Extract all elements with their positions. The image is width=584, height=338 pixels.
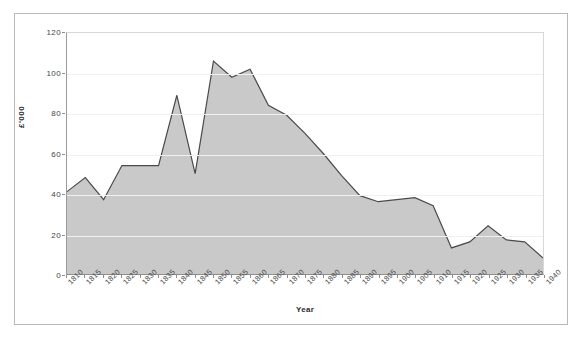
chart-container: £'000 020406080100120 181018151820182518…: [0, 0, 584, 338]
x-tick-mark: [195, 275, 196, 278]
x-tick-mark: [84, 275, 85, 278]
y-tick-label: 80: [51, 109, 61, 118]
x-tick-mark: [379, 275, 380, 278]
x-tick-mark: [140, 275, 141, 278]
x-tick-mark: [287, 275, 288, 278]
y-tick-mark: [62, 275, 65, 276]
x-tick-mark: [176, 275, 177, 278]
x-tick-mark: [470, 275, 471, 278]
gridline: [67, 236, 543, 237]
x-tick-mark: [526, 275, 527, 278]
y-tick-label: 100: [46, 68, 61, 77]
y-tick-label: 60: [51, 149, 61, 158]
x-tick-mark: [323, 275, 324, 278]
x-tick-mark: [305, 275, 306, 278]
y-axis-ticks: 020406080100120: [28, 32, 61, 275]
x-tick-mark: [360, 275, 361, 278]
gridline: [67, 155, 543, 156]
y-tick-mark: [62, 73, 65, 74]
y-tick-label: 40: [51, 190, 61, 199]
x-tick-mark: [415, 275, 416, 278]
x-tick-mark: [121, 275, 122, 278]
y-tick-mark: [62, 154, 65, 155]
gridline: [67, 195, 543, 196]
x-tick-mark: [342, 275, 343, 278]
gridline: [67, 74, 543, 75]
y-tick-label: 20: [51, 230, 61, 239]
area-fill: [67, 61, 543, 274]
x-tick-mark: [452, 275, 453, 278]
x-tick-mark: [507, 275, 508, 278]
gridline: [67, 114, 543, 115]
x-tick-mark: [268, 275, 269, 278]
x-tick-mark: [434, 275, 435, 278]
area-series: [67, 33, 543, 274]
y-tick-mark: [62, 235, 65, 236]
y-tick-mark: [62, 113, 65, 114]
x-tick-mark: [213, 275, 214, 278]
y-axis-title: £'000: [17, 106, 26, 128]
x-tick-mark: [103, 275, 104, 278]
x-tick-mark: [489, 275, 490, 278]
y-tick-label: 0: [56, 271, 61, 280]
y-tick-mark: [62, 32, 65, 33]
x-tick-mark: [231, 275, 232, 278]
x-tick-mark: [158, 275, 159, 278]
y-tick-label: 120: [46, 28, 61, 37]
y-tick-mark: [62, 194, 65, 195]
x-tick-mark: [544, 275, 545, 278]
x-tick-mark: [397, 275, 398, 278]
x-axis-title: Year: [66, 305, 544, 314]
x-tick-mark: [250, 275, 251, 278]
plot-area: [66, 32, 544, 275]
x-tick-mark: [66, 275, 67, 278]
